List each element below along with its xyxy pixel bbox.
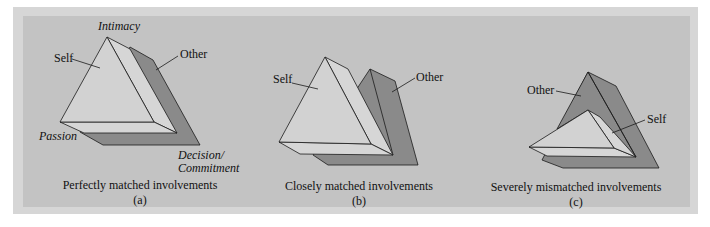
label-other-c: Other bbox=[527, 83, 554, 97]
sublabel-c: (c) bbox=[569, 195, 582, 209]
label-decision: Decision/ bbox=[177, 148, 226, 162]
label-self-a: Self bbox=[54, 51, 73, 65]
triangle-diagrams: Self Other Intimacy Passion Decision/ Co… bbox=[0, 0, 710, 227]
label-passion: Passion bbox=[38, 129, 77, 143]
caption-b: Closely matched involvements bbox=[285, 179, 433, 193]
diagram-b bbox=[279, 57, 418, 165]
sublabel-a: (a) bbox=[133, 193, 146, 207]
label-intimacy: Intimacy bbox=[97, 19, 141, 33]
caption-a: Perfectly matched involvements bbox=[63, 178, 218, 192]
label-commitment: Commitment bbox=[178, 161, 240, 175]
label-self-c: Self bbox=[647, 112, 666, 126]
label-self-b: Self bbox=[273, 72, 292, 86]
label-other-a: Other bbox=[180, 47, 207, 61]
sublabel-b: (b) bbox=[352, 194, 366, 208]
label-other-b: Other bbox=[416, 70, 443, 84]
caption-c: Severely mismatched involvements bbox=[491, 180, 662, 194]
diagram-a bbox=[60, 37, 200, 145]
